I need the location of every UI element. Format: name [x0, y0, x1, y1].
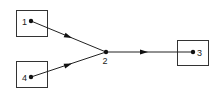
- arrowhead-1-to-2-icon: [64, 33, 73, 41]
- node-4-dot: [29, 75, 33, 79]
- node-1-dot: [29, 19, 33, 23]
- node-3-dot: [191, 50, 195, 54]
- node-4-label: 4: [22, 73, 27, 83]
- arrowhead-2-to-3-icon: [140, 50, 148, 55]
- node-2-dot: [104, 50, 108, 54]
- flow-diagram: 1 2 3 4: [0, 0, 219, 94]
- node-3-label: 3: [197, 48, 202, 58]
- arrowhead-4-to-2-icon: [64, 61, 73, 68]
- node-2-label: 2: [103, 56, 108, 66]
- node-1-label: 1: [22, 17, 27, 27]
